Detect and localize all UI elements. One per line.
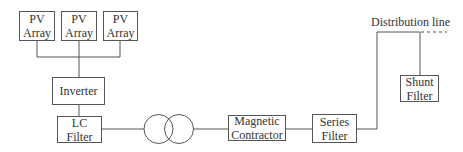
inverter-block: Inverter (52, 77, 105, 105)
lc-filter-block: LC Filter (57, 116, 102, 143)
pv-array-1: PV Array (19, 11, 55, 41)
transformer-icon (144, 115, 194, 144)
series-filter-block: Series Filter (312, 114, 357, 143)
pv-grid-system-diagram: PV Array PV Array PV Array Inverter LC F… (0, 0, 463, 152)
magnetic-contractor-block: Magnetic Contractor (228, 115, 286, 141)
distribution-line-label: Distribution line (371, 15, 450, 30)
pv-array-2: PV Array (61, 11, 97, 41)
shunt-filter-block: Shunt Filter (400, 75, 439, 102)
pv-array-3: PV Array (103, 11, 138, 41)
